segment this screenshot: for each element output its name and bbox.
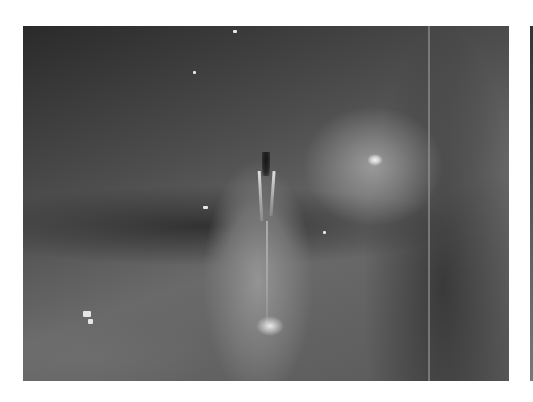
- vocal-fold-left-highlight: [258, 171, 264, 221]
- specular-reflection: [83, 311, 91, 317]
- specular-reflection: [323, 231, 326, 234]
- specular-reflection: [233, 30, 237, 33]
- specular-reflection: [88, 319, 93, 324]
- endoscopy-image: [23, 26, 509, 381]
- midline-highlight: [266, 221, 268, 331]
- specular-reflection: [193, 71, 196, 74]
- specular-reflection: [203, 206, 208, 209]
- image-artifact-line: [428, 26, 430, 381]
- vocal-fold-right-highlight: [269, 171, 275, 216]
- glottis-opening: [262, 152, 270, 176]
